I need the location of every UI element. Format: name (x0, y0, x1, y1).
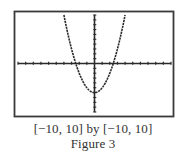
viewing-window-caption: [−10, 10] by [−10, 10] (0, 122, 180, 136)
figure-label: Figure 3 (0, 137, 180, 151)
graphing-calculator-plot (0, 0, 180, 120)
